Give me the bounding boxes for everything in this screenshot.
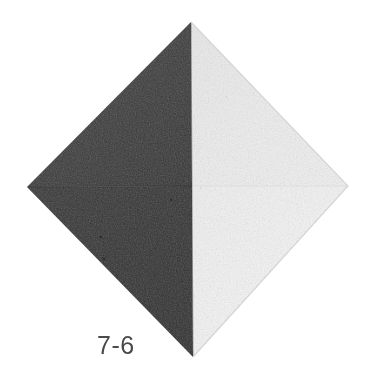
octahedron-illustration (0, 0, 367, 376)
photo-grain-overlay (0, 0, 367, 376)
figure-plate: 7-6 (0, 0, 367, 376)
crystal-photograph (0, 0, 367, 376)
figure-caption: 7-6 (97, 331, 167, 359)
